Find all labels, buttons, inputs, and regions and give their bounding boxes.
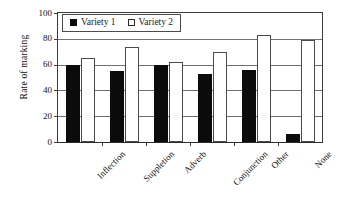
bar-group xyxy=(58,13,102,142)
bar xyxy=(81,58,95,142)
bar-group xyxy=(102,13,146,142)
bar xyxy=(110,71,124,142)
x-axis-category-labels: InflectionSuppletionAdverbConjunctionOth… xyxy=(57,143,323,205)
hollow-square-icon xyxy=(128,19,135,26)
bar-group xyxy=(278,13,322,142)
y-axis-tick-label: 20 xyxy=(18,112,58,121)
bar xyxy=(198,74,212,142)
bar-group xyxy=(146,13,190,142)
bar-group xyxy=(234,13,278,142)
y-axis-tick-label: 40 xyxy=(18,86,58,95)
y-axis-tick-label: 0 xyxy=(18,138,58,147)
x-axis-category-label: None xyxy=(313,149,334,170)
legend-label: Variety 1 xyxy=(81,17,116,28)
x-axis-category-label: Inflection xyxy=(95,149,127,181)
bar xyxy=(169,62,183,142)
bar-groups xyxy=(58,13,322,142)
x-axis-category-label: Adverb xyxy=(182,149,208,175)
bar xyxy=(257,35,271,142)
bar xyxy=(286,134,300,142)
chart-legend: Variety 1Variety 2 xyxy=(62,14,181,32)
bar xyxy=(125,47,139,142)
x-axis-category-label: Conjunction xyxy=(231,149,270,188)
bar xyxy=(66,65,80,142)
y-axis-tick-label: 100 xyxy=(18,9,58,18)
filled-square-icon xyxy=(70,19,77,26)
bar-group xyxy=(190,13,234,142)
bar xyxy=(301,40,315,142)
y-axis-tick-label: 60 xyxy=(18,60,58,69)
legend-label: Variety 2 xyxy=(139,17,174,28)
x-axis-category-label: Suppletion xyxy=(141,149,176,184)
legend-entry: Variety 2 xyxy=(128,17,174,28)
x-axis-category-label: Other xyxy=(269,149,291,171)
bar-chart-figure: Rate of marking 020406080100 Variety 1Va… xyxy=(0,0,337,207)
legend-entry: Variety 1 xyxy=(70,17,116,28)
y-axis-tick-label: 80 xyxy=(18,34,58,43)
bar xyxy=(154,65,168,142)
bar xyxy=(213,52,227,142)
bar xyxy=(242,70,256,142)
